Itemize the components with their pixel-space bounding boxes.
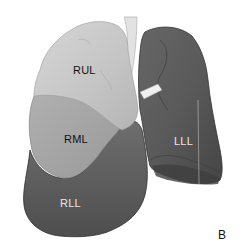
- panel-label: B: [218, 229, 226, 241]
- lung-lobes-figure: RUL RML RLL LLL B: [0, 0, 239, 249]
- lobe-label-lll: LLL: [174, 136, 193, 147]
- lung-illustration: [0, 0, 239, 249]
- lobe-label-rul: RUL: [73, 65, 96, 76]
- lll-lobe: [139, 27, 223, 184]
- lobe-label-rml: RML: [64, 134, 88, 145]
- lobe-label-rll: RLL: [60, 198, 81, 209]
